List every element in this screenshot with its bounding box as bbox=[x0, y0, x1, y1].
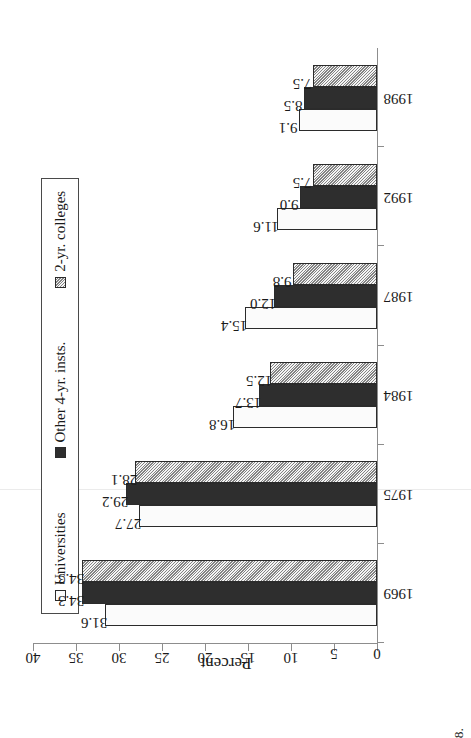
bar-groups: 31.634.334.327.729.228.116.813.712.515.4… bbox=[33, 48, 377, 643]
bar-1984-other-4-yr-insts-: 13.7 bbox=[259, 384, 377, 406]
value-tick-label: 15 bbox=[241, 650, 256, 665]
bar-value-label: 11.6 bbox=[253, 219, 279, 234]
bar-value-label: 8.5 bbox=[284, 98, 303, 113]
bar-1975-universities: 27.7 bbox=[139, 505, 377, 527]
value-tick-label: 35 bbox=[69, 650, 84, 665]
bar-value-label: 7.5 bbox=[292, 76, 311, 91]
bar-1969-2-yr-colleges: 34.3 bbox=[82, 560, 377, 582]
bar-1998-2-yr-colleges: 7.5 bbox=[313, 65, 378, 87]
category-label-1992: 1992 bbox=[378, 147, 418, 246]
bar-value-label: 34.3 bbox=[58, 571, 84, 586]
category-tick-mark bbox=[378, 543, 384, 544]
category-label-1984: 1984 bbox=[378, 346, 418, 445]
rotated-chart-wrapper: UniversitiesOther 4-yr. insts.2-yr. coll… bbox=[0, 0, 471, 700]
category-label-1987: 1987 bbox=[378, 246, 418, 345]
value-tick-label: 40 bbox=[26, 650, 41, 665]
bar-group-1969: 31.634.334.3 bbox=[33, 544, 377, 643]
value-tick-label: 20 bbox=[198, 650, 213, 665]
bar-value-label: 12.5 bbox=[245, 373, 271, 388]
value-tick-label: 0 bbox=[373, 646, 381, 661]
value-tick-label: 10 bbox=[284, 650, 299, 665]
bar-value-label: 15.4 bbox=[220, 318, 246, 333]
bar-value-label: 9.1 bbox=[278, 120, 297, 135]
bar-1987-2-yr-colleges: 9.8 bbox=[293, 263, 377, 285]
plot-area: Percent 0510152025303540 31.634.334.327.… bbox=[33, 48, 418, 644]
bar-value-label: 12.0 bbox=[250, 296, 276, 311]
category-label-text: 1992 bbox=[383, 189, 413, 204]
category-label-1998: 1998 bbox=[378, 48, 418, 147]
bar-chart: UniversitiesOther 4-yr. insts.2-yr. coll… bbox=[25, 0, 445, 700]
bar-1969-other-4-yr-insts-: 34.3 bbox=[82, 582, 377, 604]
bar-1992-2-yr-colleges: 7.5 bbox=[313, 164, 378, 186]
bar-1975-2-yr-colleges: 28.1 bbox=[135, 461, 377, 483]
bar-1998-universities: 9.1 bbox=[299, 109, 377, 131]
bar-group-1987: 15.412.09.8 bbox=[33, 246, 377, 345]
bar-value-label: 27.7 bbox=[115, 516, 141, 531]
bar-value-label: 13.7 bbox=[235, 395, 261, 410]
bar-value-label: 29.2 bbox=[102, 494, 128, 509]
value-tick-label: 25 bbox=[155, 650, 170, 665]
bar-group-1992: 11.69.07.5 bbox=[33, 147, 377, 246]
category-tick-mark bbox=[378, 146, 384, 147]
bar-group-1998: 9.18.57.5 bbox=[33, 48, 377, 147]
bar-value-label: 9.8 bbox=[272, 274, 291, 289]
category-tick-mark bbox=[378, 345, 384, 346]
bar-value-label: 34.3 bbox=[58, 593, 84, 608]
category-tick-mark bbox=[378, 444, 384, 445]
bar-value-label: 28.1 bbox=[111, 472, 137, 487]
category-label-1975: 1975 bbox=[378, 445, 418, 544]
category-label-text: 1975 bbox=[383, 487, 413, 502]
bar-1998-other-4-yr-insts-: 8.5 bbox=[304, 87, 377, 109]
bar-group-1984: 16.813.712.5 bbox=[33, 346, 377, 445]
bar-1984-2-yr-colleges: 12.5 bbox=[270, 362, 378, 384]
figure-page: UniversitiesOther 4-yr. insts.2-yr. coll… bbox=[0, 0, 471, 738]
category-label-text: 1998 bbox=[383, 90, 413, 105]
bar-1969-universities: 31.6 bbox=[105, 604, 377, 626]
value-tick-label: 30 bbox=[112, 650, 127, 665]
bar-value-label: 16.8 bbox=[208, 417, 234, 432]
value-tick-label: 5 bbox=[330, 646, 338, 661]
category-tick-mark bbox=[378, 642, 384, 643]
category-label-1969: 1969 bbox=[378, 544, 418, 643]
bar-1975-other-4-yr-insts-: 29.2 bbox=[126, 483, 377, 505]
bar-value-label: 9.0 bbox=[279, 197, 298, 212]
bar-group-1975: 27.729.228.1 bbox=[33, 445, 377, 544]
figure-caption-text: Full-time faculty age 35 or under, by in… bbox=[451, 728, 466, 738]
bar-value-label: 31.6 bbox=[81, 615, 107, 630]
category-label-text: 1987 bbox=[383, 288, 413, 303]
bar-value-label: 7.5 bbox=[292, 175, 311, 190]
category-label-text: 1969 bbox=[383, 586, 413, 601]
category-label-text: 1984 bbox=[383, 388, 413, 403]
category-axis-labels: 196919751984198719921998 bbox=[378, 48, 418, 643]
category-tick-mark bbox=[378, 245, 384, 246]
